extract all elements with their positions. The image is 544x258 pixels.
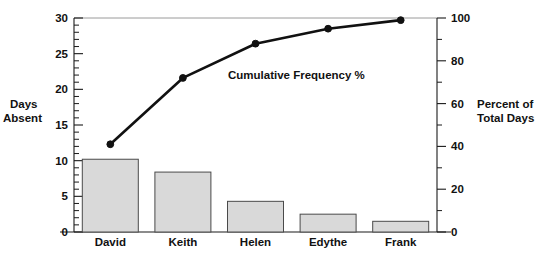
right-axis-title: Percent of Total Days	[477, 98, 534, 124]
bar-frank	[373, 221, 429, 232]
right-axis-tick-labels: 100806040200	[451, 12, 470, 238]
left-axis-tick-labels: 302520151050	[55, 12, 68, 238]
bar-keith	[155, 172, 211, 232]
left-axis-ticks	[74, 18, 83, 232]
right-axis-title-line2: Total Days	[477, 112, 534, 124]
left-axis-title: Days Absent	[3, 98, 42, 124]
category-label-david: David	[95, 236, 126, 248]
left-tick-label: 30	[55, 12, 68, 24]
cumulative-marker-edythe	[325, 25, 332, 32]
bar-helen	[228, 201, 284, 232]
cumulative-frequency-annotation: Cumulative Frequency %	[228, 69, 365, 81]
left-tick-label: 10	[55, 155, 68, 167]
category-label-keith: Keith	[169, 236, 198, 248]
right-tick-label: 0	[451, 226, 457, 238]
cumulative-marker-keith	[180, 75, 187, 82]
left-axis-title-line1: Days	[10, 98, 38, 110]
left-tick-label: 15	[55, 119, 68, 131]
category-label-frank: Frank	[385, 236, 417, 248]
category-label-helen: Helen	[240, 236, 271, 248]
bar-edythe	[300, 214, 356, 232]
left-tick-label: 25	[55, 48, 68, 60]
left-tick-label: 20	[55, 83, 68, 95]
right-axis-title-line1: Percent of	[477, 98, 533, 110]
bar-david	[82, 159, 138, 232]
cumulative-marker-frank	[397, 17, 404, 24]
right-tick-label: 40	[451, 140, 464, 152]
category-label-edythe: Edythe	[309, 236, 347, 248]
right-tick-label: 20	[451, 183, 464, 195]
right-axis-ticks	[437, 18, 446, 232]
right-tick-label: 80	[451, 55, 464, 67]
right-tick-label: 100	[451, 12, 470, 24]
cumulative-markers	[107, 17, 404, 148]
category-labels: DavidKeithHelenEdytheFrank	[95, 236, 417, 248]
pareto-chart: 302520151050 100806040200 DavidKeithHele…	[0, 0, 544, 258]
cumulative-line-series	[107, 17, 404, 148]
left-tick-label: 5	[62, 190, 69, 202]
chart-canvas: 302520151050 100806040200 DavidKeithHele…	[0, 0, 544, 258]
right-tick-label: 60	[451, 98, 464, 110]
cumulative-marker-david	[107, 141, 114, 148]
cumulative-frequency-line	[110, 20, 400, 144]
left-tick-label: 0	[62, 226, 68, 238]
left-axis-title-line2: Absent	[3, 112, 42, 124]
bar-series	[82, 159, 428, 232]
cumulative-marker-helen	[252, 40, 259, 47]
